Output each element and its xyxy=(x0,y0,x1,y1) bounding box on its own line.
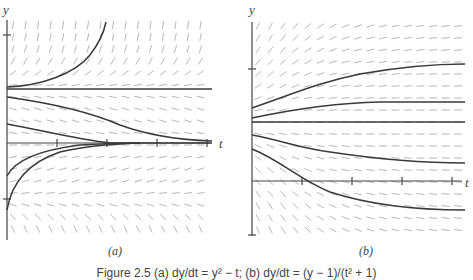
panel-b-label: (b) xyxy=(359,244,373,259)
slope-field-b xyxy=(254,23,462,234)
y-axis-label-b: y xyxy=(247,2,255,17)
t-axis-label-b: t xyxy=(465,175,469,190)
figure-caption: Figure 2.5 (a) dy/dt = y² − t; (b) dy/dt… xyxy=(0,266,473,280)
slope-field-a xyxy=(9,21,205,233)
y-axis-label-a: y xyxy=(1,2,9,17)
axes-b xyxy=(248,22,462,236)
t-axis-label-a: t xyxy=(219,136,223,151)
panel-a-label: (a) xyxy=(108,244,122,259)
